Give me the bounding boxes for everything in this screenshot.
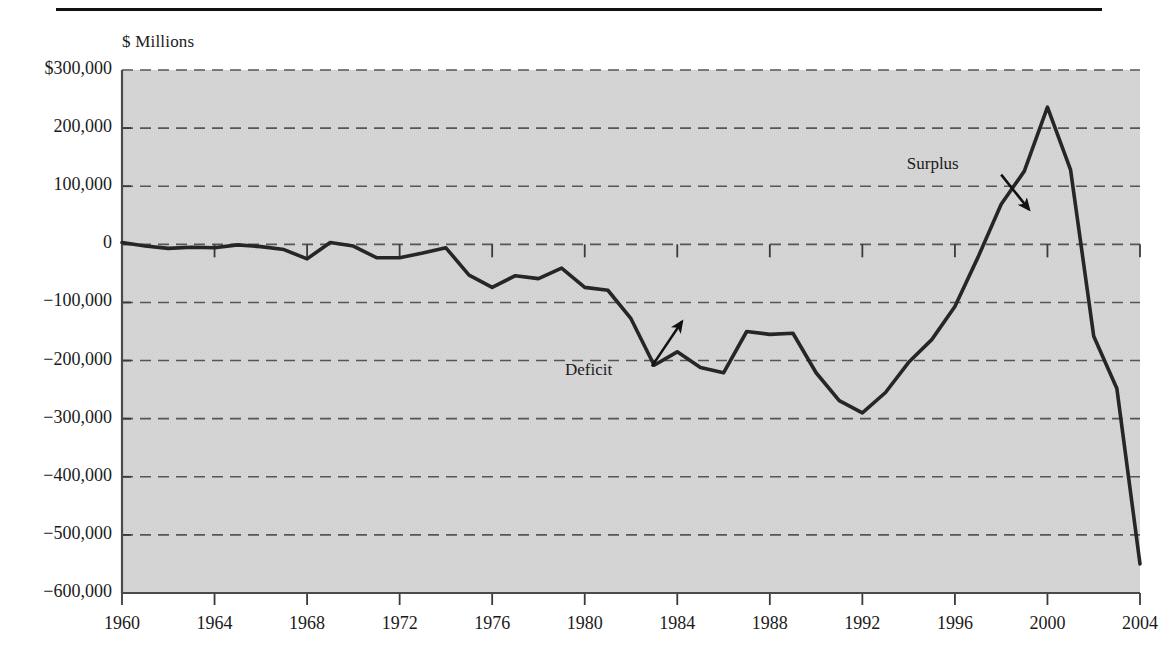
- y-axis-tick-label: −300,000: [0, 407, 112, 428]
- y-axis-tick-label: −500,000: [0, 523, 112, 544]
- annotation-label: Deficit: [565, 360, 612, 380]
- y-axis-tick-label: 100,000: [0, 174, 112, 195]
- x-axis-tick-label: 1964: [175, 613, 255, 634]
- y-axis-tick-label: 200,000: [0, 116, 112, 137]
- x-axis-tick-label: 1960: [82, 613, 162, 634]
- x-axis-tick-label: 1996: [915, 613, 995, 634]
- x-axis-tick-label: 1988: [730, 613, 810, 634]
- x-axis-tick-label: 1968: [267, 613, 347, 634]
- x-axis-tick-label: 2004: [1100, 613, 1163, 634]
- plot-background: [122, 70, 1140, 593]
- y-axis-tick-label: −200,000: [0, 349, 112, 370]
- x-axis-tick-label: 1972: [360, 613, 440, 634]
- x-axis-tick-label: 1976: [452, 613, 532, 634]
- x-axis-tick-label: 1984: [637, 613, 717, 634]
- x-axis-tick-label: 2000: [1007, 613, 1087, 634]
- y-axis-tick-label: −400,000: [0, 465, 112, 486]
- x-axis-tick-label: 1992: [822, 613, 902, 634]
- x-axis-tick-label: 1980: [545, 613, 625, 634]
- y-axis-tick-label: −100,000: [0, 290, 112, 311]
- annotation-label: Surplus: [907, 154, 959, 174]
- y-axis-tick-label: 0: [0, 232, 112, 253]
- y-axis-tick-label: $300,000: [0, 58, 112, 79]
- y-axis-tick-label: −600,000: [0, 581, 112, 602]
